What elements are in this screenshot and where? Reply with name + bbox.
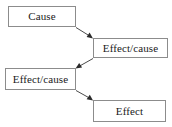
node-label-effect: Effect	[116, 105, 143, 116]
cause-effect-diagram: Cause Effect/cause Effect/cause Effect	[0, 0, 172, 127]
edge-line-3	[76, 91, 91, 99]
edge-effectcause2-to-effect	[76, 91, 93, 101]
edge-line-2	[79, 59, 93, 67]
node-label-effect-cause-2: Effect/cause	[13, 73, 68, 84]
node-label-cause: Cause	[28, 11, 55, 22]
node-label-effect-cause-1: Effect/cause	[103, 42, 158, 53]
edge-line-1	[76, 28, 91, 37]
arrowhead-icon-2	[76, 63, 83, 68]
node-box-cause: Cause	[8, 6, 76, 27]
node-box-effect-cause-2: Effect/cause	[5, 68, 76, 90]
edge-effectcause1-to-effectcause2	[76, 59, 94, 69]
node-box-effect: Effect	[93, 100, 166, 122]
edge-cause-to-effectcause1	[76, 28, 93, 39]
node-box-effect-cause-1: Effect/cause	[93, 38, 168, 58]
